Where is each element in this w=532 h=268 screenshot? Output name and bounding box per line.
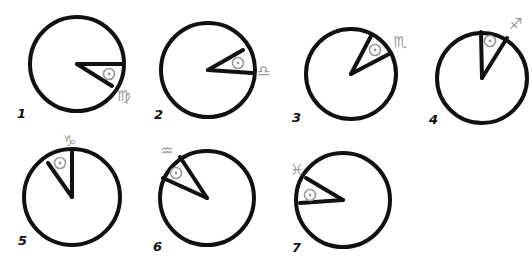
- panel-number: 4: [429, 113, 438, 126]
- zodiac-sagittarius-icon: ♐: [509, 17, 522, 32]
- sector-edge-a: [208, 70, 252, 73]
- sector-edge-b: [208, 50, 243, 70]
- panel-number: 5: [18, 234, 27, 247]
- panel-6: [160, 151, 254, 245]
- sector-edge-b: [77, 64, 112, 86]
- panel-1: [30, 17, 124, 111]
- sector-edge-a: [481, 32, 482, 78]
- zodiac-virgo-icon: ♍: [117, 89, 130, 104]
- sector-edge-a: [300, 200, 343, 203]
- zodiac-scorpio-icon: ♏: [393, 35, 406, 50]
- diagram-canvas: [0, 0, 532, 268]
- sun-icon: [305, 190, 316, 201]
- panel-number: 3: [292, 111, 301, 124]
- sun-icon: [171, 168, 182, 179]
- panel-3: [306, 29, 396, 119]
- sun-icon: [55, 158, 66, 169]
- panel-number: 6: [153, 240, 162, 253]
- zodiac-sun-diagram: ♍1♎2♏3♐4♑5♒6♓7: [0, 0, 532, 268]
- panel-number: 7: [292, 241, 301, 254]
- sun-icon: [485, 36, 496, 47]
- zodiac-pisces-icon: ♓: [290, 163, 303, 178]
- panel-number: 1: [17, 107, 26, 120]
- sun-icon: [104, 69, 115, 80]
- sun-icon: [370, 45, 381, 56]
- panel-2: [161, 23, 255, 117]
- panel-number: 2: [154, 108, 163, 121]
- panel-5: [24, 149, 120, 245]
- zodiac-capricorn-icon: ♑: [63, 134, 76, 149]
- zodiac-libra-icon: ♎: [257, 64, 270, 79]
- sun-icon: [233, 58, 244, 69]
- panel-4: [437, 32, 527, 123]
- panel-7: [296, 153, 390, 247]
- zodiac-aquarius-icon: ♒: [160, 144, 173, 159]
